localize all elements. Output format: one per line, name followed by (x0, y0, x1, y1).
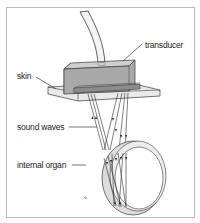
cable (80, 11, 105, 64)
label-sound-waves: sound waves (17, 122, 64, 132)
ultrasound-diagram (0, 0, 200, 223)
sound-wave-beams (88, 93, 128, 150)
label-internal-organ: internal organ (17, 160, 66, 170)
label-transducer: transducer (145, 40, 183, 50)
transducer-body (64, 60, 140, 94)
label-skin: skin (17, 71, 31, 81)
internal-organ (84, 141, 166, 215)
